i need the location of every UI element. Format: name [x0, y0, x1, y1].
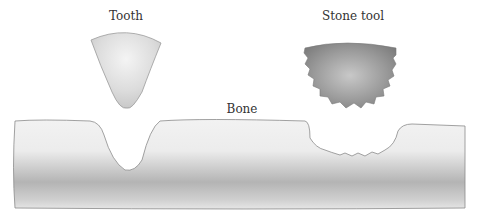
- stone-tool-shape: [304, 43, 396, 108]
- tooth-shape: [91, 33, 161, 109]
- tooth-label: Tooth: [109, 9, 143, 23]
- stone-tool-label: Stone tool: [322, 9, 384, 23]
- bone-label: Bone: [227, 102, 258, 116]
- bone-shape: [14, 120, 466, 210]
